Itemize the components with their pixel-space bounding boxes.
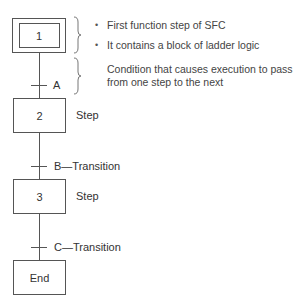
- connector-3-end: [39, 213, 40, 260]
- annotation-initial-2: It contains a block of ladder logic: [107, 39, 259, 52]
- end-step-box: End: [13, 260, 66, 295]
- annotation-transition-1: Condition that causes execution to pass: [107, 63, 293, 76]
- step-1-label: 1: [36, 30, 42, 42]
- transition-b-label: B—Transition: [54, 160, 120, 172]
- transition-c-label: C—Transition: [54, 241, 121, 253]
- step-2-label: 2: [36, 110, 42, 122]
- initial-step-outer: 1: [12, 18, 66, 53]
- transition-a-label: A: [53, 79, 60, 91]
- step-3-box: 3: [13, 179, 66, 214]
- step-2-side-label: Step: [76, 109, 99, 121]
- end-step-label: End: [30, 272, 50, 284]
- connector-1-2: [39, 52, 40, 98]
- bullet-2: •: [95, 40, 98, 50]
- bullet-1: •: [95, 20, 98, 30]
- annotation-initial-1: First function step of SFC: [107, 19, 225, 32]
- transition-b-bar: [31, 166, 47, 167]
- step-3-side-label: Step: [76, 190, 99, 202]
- annotation-transition-2: from one step to the next: [107, 76, 223, 89]
- brace-initial-step: [74, 17, 81, 53]
- transition-a-bar: [31, 85, 47, 86]
- step-3-label: 3: [36, 191, 42, 203]
- transition-c-bar: [31, 247, 47, 248]
- brace-transition: [74, 58, 81, 94]
- step-2-box: 2: [13, 98, 66, 133]
- connector-2-3: [39, 133, 40, 179]
- initial-step-inner: 1: [19, 23, 60, 48]
